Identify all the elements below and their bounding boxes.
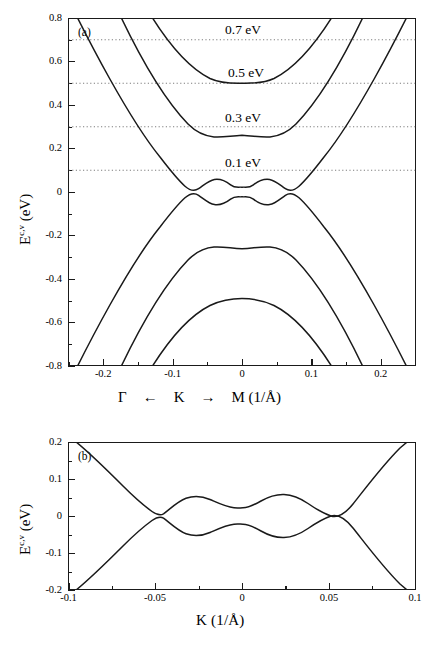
panel-b-curves bbox=[0, 420, 438, 648]
band-valence-3 bbox=[134, 299, 350, 398]
band-conduction-2 bbox=[103, 0, 381, 137]
figure-band-structure: (a) 0.8 0.6 0.4 0.2 0 -0.2 -0.4 -0.6 -0.… bbox=[0, 0, 438, 648]
band-b-conduction bbox=[69, 435, 416, 517]
panel-a-curves bbox=[0, 0, 438, 418]
band-conduction-3 bbox=[134, 0, 350, 83]
band-conduction-1 bbox=[59, 0, 425, 190]
band-b-valence bbox=[69, 516, 416, 598]
panel-a: (a) 0.8 0.6 0.4 0.2 0 -0.2 -0.4 -0.6 -0.… bbox=[0, 0, 438, 418]
panel-b: (b) 0.2 0.1 0 -0.1 -0.2 -0.1 -0.05 0 0.0… bbox=[0, 420, 438, 648]
band-valence-2 bbox=[103, 247, 381, 406]
